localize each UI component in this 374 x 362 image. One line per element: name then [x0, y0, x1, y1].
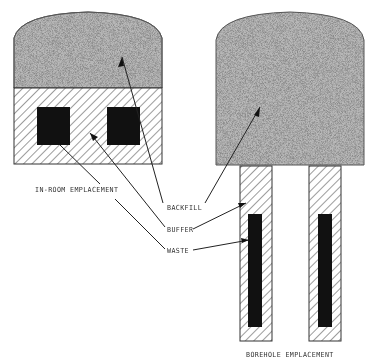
in-room-emplacement — [14, 12, 162, 164]
borehole-emplacement — [216, 12, 364, 341]
buffer-label: BUFFER — [167, 226, 193, 234]
borehole-emplacement-label: BOREHOLE EMPLACEMENT — [246, 351, 334, 359]
emplacement-diagram — [0, 0, 374, 362]
in-room-waste-1 — [37, 107, 70, 145]
in-room-waste-2 — [107, 107, 140, 145]
borehole-waste-2 — [318, 214, 332, 327]
borehole-waste-1 — [248, 214, 262, 327]
backfill-label: BACKFILL — [167, 204, 202, 212]
in-room-emplacement-label: IN-ROOM EMPLACEMENT — [35, 186, 118, 194]
waste-label: WASTE — [167, 247, 189, 255]
